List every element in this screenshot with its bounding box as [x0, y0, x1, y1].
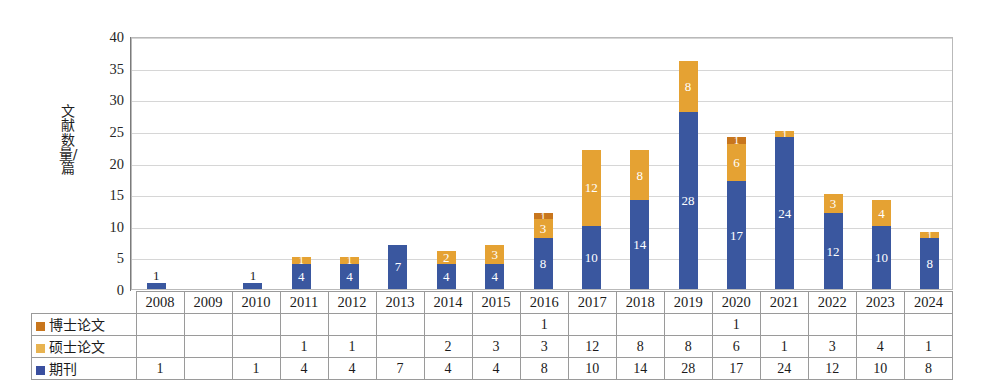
- table-cell: 12: [568, 336, 616, 358]
- table-year-header-2014: 2014: [424, 292, 472, 314]
- table-cell: [328, 314, 376, 336]
- gridline-25: [132, 133, 952, 134]
- y-tick-25: 25: [96, 125, 124, 140]
- bar-value-label: 14: [633, 238, 646, 251]
- legend-item-journal[interactable]: 期刊: [32, 358, 137, 380]
- bar-value-label: 8: [685, 80, 692, 93]
- bar-2021[interactable]: 124: [775, 131, 794, 289]
- bar-2017[interactable]: 1210: [582, 150, 601, 289]
- table-cell: [856, 314, 904, 336]
- bar-segment-master-2017: 12: [582, 150, 601, 226]
- bar-2014[interactable]: 24: [437, 251, 456, 289]
- bar-value-label: 12: [827, 245, 840, 258]
- table-row: 硕士论文11233128861341: [32, 336, 953, 358]
- table-cell: 4: [424, 358, 472, 380]
- gridline-40: [132, 38, 952, 39]
- table-cell: 1: [136, 358, 184, 380]
- table-cell: [568, 314, 616, 336]
- bar-segment-journal-2016: 8: [534, 238, 553, 289]
- bar-value-label: 12: [585, 181, 598, 194]
- bar-segment-journal-2010: [243, 283, 262, 289]
- table-cell: [136, 336, 184, 358]
- bar-value-label-outside: 1: [153, 269, 160, 282]
- table-cell: 3: [472, 336, 520, 358]
- table-year-header-2012: 2012: [328, 292, 376, 314]
- table-cell: [760, 314, 808, 336]
- bar-2018[interactable]: 814: [630, 150, 649, 289]
- table-cell: 1: [712, 314, 760, 336]
- table-cell: 1: [280, 336, 328, 358]
- bar-segment-journal-2022: 12: [824, 213, 843, 289]
- table-cell: [184, 336, 232, 358]
- bar-segment-journal-2018: 14: [630, 200, 649, 289]
- bar-2016[interactable]: 138: [534, 213, 553, 289]
- bar-segment-journal-2014: 4: [437, 264, 456, 289]
- bar-segment-master-2020: 6: [727, 144, 746, 182]
- table-row: 博士论文11: [32, 314, 953, 336]
- table-cell: 4: [856, 336, 904, 358]
- table-row: 期刊11447448101428172412108: [32, 358, 953, 380]
- table-cell: 10: [856, 358, 904, 380]
- table-year-header-2020: 2020: [712, 292, 760, 314]
- bar-value-label: 3: [830, 197, 837, 210]
- table-year-header-2015: 2015: [472, 292, 520, 314]
- table-cell: 14: [616, 358, 664, 380]
- bar-value-label: 10: [875, 251, 888, 264]
- bar-segment-master-2016: 3: [534, 219, 553, 238]
- bar-value-label: 3: [491, 248, 498, 261]
- bar-2023[interactable]: 410: [872, 200, 891, 289]
- table-cell: 24: [760, 358, 808, 380]
- bar-2015[interactable]: 34: [485, 245, 504, 289]
- table-cell: [808, 314, 856, 336]
- bar-2024[interactable]: 18: [920, 232, 939, 289]
- table-cell: 1: [904, 336, 952, 358]
- gridline-20: [132, 165, 952, 166]
- bar-2012[interactable]: 14: [340, 257, 359, 289]
- bar-2022[interactable]: 312: [824, 194, 843, 289]
- plot-area: 111414724341381210814828161712431241018: [131, 37, 953, 290]
- bar-segment-master-2019: 8: [679, 61, 698, 112]
- y-axis-title: 文献数量/篇: [58, 104, 78, 175]
- legend-item-doctor[interactable]: 博士论文: [32, 314, 137, 336]
- bar-value-label: 4: [298, 270, 305, 283]
- legend-label: 硕士论文: [49, 339, 105, 355]
- bar-2013[interactable]: 7: [388, 245, 407, 289]
- table-cell: 3: [808, 336, 856, 358]
- bar-segment-journal-2013: 7: [388, 245, 407, 289]
- y-tick-30: 30: [96, 93, 124, 108]
- bar-2019[interactable]: 828: [679, 61, 698, 289]
- bar-segment-journal-2008: [147, 283, 166, 289]
- legend-item-master[interactable]: 硕士论文: [32, 336, 137, 358]
- legend-swatch-icon: [36, 344, 45, 353]
- table-year-header-2019: 2019: [664, 292, 712, 314]
- bar-value-label: 4: [346, 270, 353, 283]
- bar-value-label: 8: [927, 257, 934, 270]
- bar-segment-journal-2015: 4: [485, 264, 504, 289]
- table-cell: 1: [520, 314, 568, 336]
- bar-value-label: 7: [395, 260, 402, 273]
- bar-value-label: 28: [682, 194, 695, 207]
- table-year-header-2024: 2024: [904, 292, 952, 314]
- table-cell: [280, 314, 328, 336]
- table-cell: 2: [424, 336, 472, 358]
- table-cell: 1: [328, 336, 376, 358]
- y-tick-40: 40: [96, 30, 124, 45]
- table-cell: [424, 314, 472, 336]
- bar-value-label: 24: [778, 207, 791, 220]
- bar-2011[interactable]: 14: [292, 257, 311, 289]
- table-cell: [664, 314, 712, 336]
- bar-2010[interactable]: 1: [243, 283, 262, 289]
- table-cell: 17: [712, 358, 760, 380]
- table-cell: [136, 314, 184, 336]
- bar-2020[interactable]: 1617: [727, 137, 746, 289]
- bar-segment-journal-2011: 4: [292, 264, 311, 289]
- table-cell: 6: [712, 336, 760, 358]
- table-cell: 1: [232, 358, 280, 380]
- bar-segment-master-2022: 3: [824, 194, 843, 213]
- bar-segment-journal-2012: 4: [340, 264, 359, 289]
- bar-2008[interactable]: 1: [147, 283, 166, 289]
- y-tick-5: 5: [96, 251, 124, 266]
- bar-segment-master-2023: 4: [872, 200, 891, 225]
- legend-swatch-icon: [36, 322, 45, 331]
- table-cell: 8: [616, 336, 664, 358]
